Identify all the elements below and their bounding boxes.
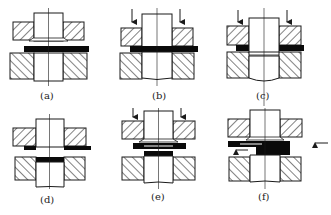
upper-die-right [64,128,86,146]
strip [24,46,89,52]
panel-b: (b) [120,8,198,101]
process-diagram: (a) (b) (c) [0,0,331,215]
upper-die-left [228,119,250,137]
lower-die-left [122,157,144,180]
lower-die-left [10,53,34,79]
upper-die-left [121,28,142,46]
blank-part [256,147,290,155]
strip-right [279,45,304,51]
lower-die-left [120,53,142,79]
lower-die-right [63,53,87,79]
upper-die-right [172,28,193,46]
upper-die-right [63,22,84,40]
panel-a: (a) [10,8,89,101]
upper-die-left [227,26,249,45]
lower-die-left [227,52,249,78]
strip [130,46,198,52]
panel-label-b: (b) [152,90,166,101]
upper-die-left [122,121,144,139]
upper-die-right [280,119,302,137]
lower-die-right [173,157,195,180]
upper-die-right [279,26,301,45]
panel-label-c: (c) [256,90,270,101]
upper-die-left [13,128,36,146]
lower-die-left [15,157,36,180]
panel-d: (d) [13,114,91,205]
lower-die-right [172,53,194,79]
punch-upper [36,119,64,147]
panel-label-e: (e) [151,191,165,202]
panel-e: (e) [122,108,195,202]
lower-die-right [64,157,85,180]
panel-f: (f) [228,108,328,202]
lower-die-right [280,157,301,181]
strip-left [236,45,249,51]
upper-die-left [13,22,34,40]
lower-die-left [229,157,250,181]
strip-left [24,146,36,150]
panel-label-d: (d) [40,194,54,205]
panel-c: (c) [227,8,304,106]
lower-die-right [279,52,301,78]
punch-lower [36,162,64,187]
strip-right [64,146,91,150]
panel-label-f: (f) [258,191,270,202]
panel-label-a: (a) [40,90,54,101]
blank-part [36,157,64,162]
upper-die-right [173,121,195,139]
